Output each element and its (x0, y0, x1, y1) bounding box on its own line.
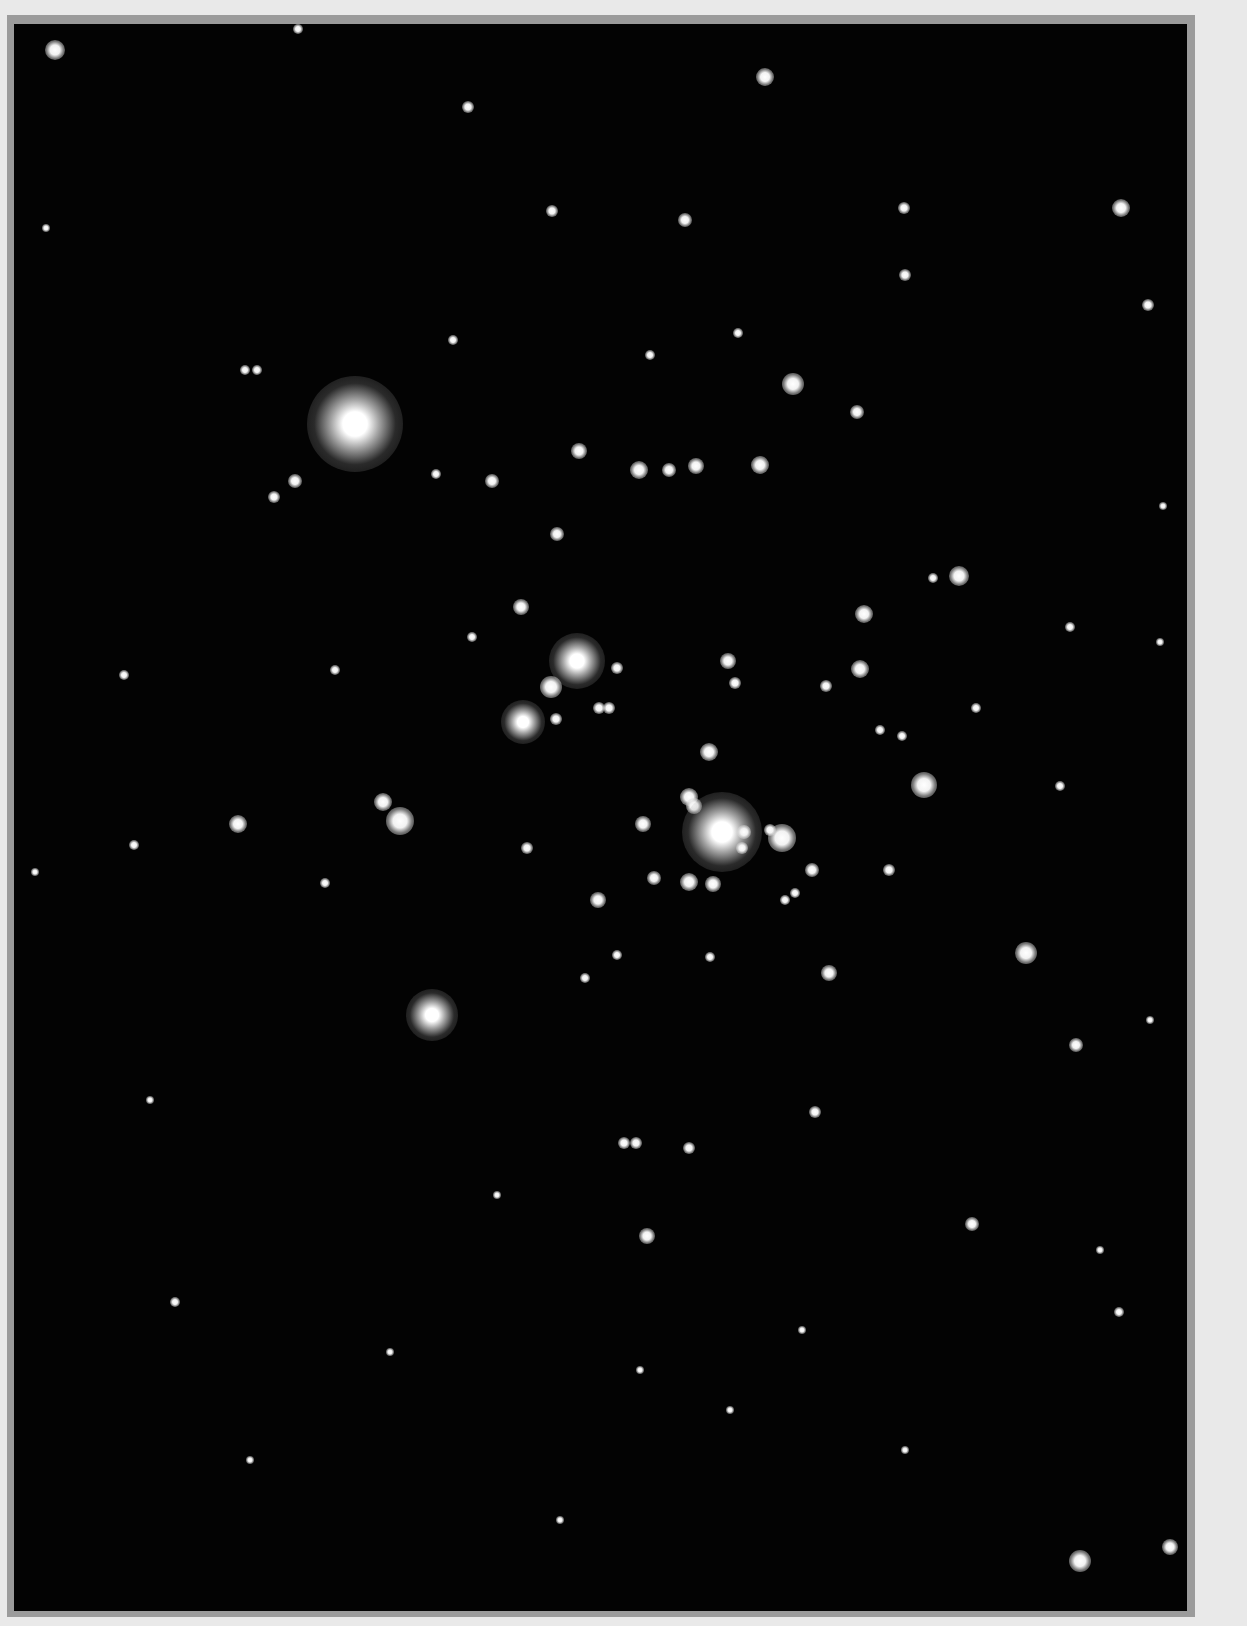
star (899, 269, 911, 281)
star (901, 1446, 909, 1454)
star (729, 677, 741, 689)
star (636, 1366, 644, 1374)
star (645, 350, 655, 360)
star (798, 1326, 806, 1334)
star (965, 1217, 979, 1231)
star (603, 702, 615, 714)
star (590, 892, 606, 908)
star (556, 1516, 564, 1524)
star (1055, 781, 1065, 791)
star (448, 335, 458, 345)
star (1015, 942, 1037, 964)
star (851, 660, 869, 678)
star (971, 703, 981, 713)
star (850, 405, 864, 419)
star (1112, 199, 1130, 217)
star (898, 202, 910, 214)
star (737, 825, 751, 839)
star (1142, 299, 1154, 311)
star (1114, 1307, 1124, 1317)
star (875, 725, 885, 735)
star (949, 566, 969, 586)
star (288, 474, 302, 488)
star (485, 474, 499, 488)
star (897, 731, 907, 741)
star (45, 40, 65, 60)
star (374, 793, 392, 811)
star (31, 868, 39, 876)
star (320, 878, 330, 888)
star (756, 68, 774, 86)
star (821, 965, 837, 981)
star (782, 373, 804, 395)
star (630, 1137, 642, 1149)
star (911, 772, 937, 798)
bright-star (307, 376, 403, 472)
star (809, 1106, 821, 1118)
star (680, 873, 698, 891)
star (733, 328, 743, 338)
star (546, 205, 558, 217)
star (678, 213, 692, 227)
star (540, 676, 562, 698)
star (513, 599, 529, 615)
star (571, 443, 587, 459)
star (647, 871, 661, 885)
star (42, 224, 50, 232)
star (805, 863, 819, 877)
star (630, 461, 648, 479)
star (1159, 502, 1167, 510)
star (293, 24, 303, 34)
star (751, 456, 769, 474)
star (580, 973, 590, 983)
star (431, 469, 441, 479)
bright-star (406, 989, 458, 1041)
star (550, 713, 562, 725)
star (386, 807, 414, 835)
star (790, 888, 800, 898)
star (521, 842, 533, 854)
star-field-photo (14, 24, 1187, 1611)
star (700, 743, 718, 761)
star (229, 815, 247, 833)
star (1096, 1246, 1104, 1254)
star (662, 463, 676, 477)
star (330, 665, 340, 675)
star (493, 1191, 501, 1199)
star (736, 842, 748, 854)
star (170, 1297, 180, 1307)
star (386, 1348, 394, 1356)
star (720, 653, 736, 669)
star (764, 824, 776, 836)
star (467, 632, 477, 642)
star (726, 1406, 734, 1414)
star (611, 662, 623, 674)
bright-star (501, 700, 545, 744)
star (855, 605, 873, 623)
star (550, 527, 564, 541)
star (146, 1096, 154, 1104)
star (1069, 1550, 1091, 1572)
star (1146, 1016, 1154, 1024)
star (928, 573, 938, 583)
star (1069, 1038, 1083, 1052)
star (1065, 622, 1075, 632)
star (268, 491, 280, 503)
star (119, 670, 129, 680)
star (240, 365, 250, 375)
star (246, 1456, 254, 1464)
star (1162, 1539, 1178, 1555)
star (683, 1142, 695, 1154)
star (820, 680, 832, 692)
star (1156, 638, 1164, 646)
star (705, 952, 715, 962)
star (705, 876, 721, 892)
star (639, 1228, 655, 1244)
star (462, 101, 474, 113)
star (252, 365, 262, 375)
star (635, 816, 651, 832)
star (780, 895, 790, 905)
star (612, 950, 622, 960)
star (129, 840, 139, 850)
star (618, 1137, 630, 1149)
